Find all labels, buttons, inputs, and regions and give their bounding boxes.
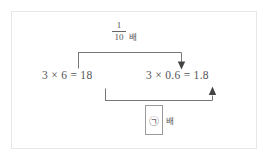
top-bracket [78, 53, 185, 70]
fraction-one-tenth: 1 10 [112, 21, 126, 42]
equation-right: 3 × 0.6 = 1.8 [146, 70, 209, 82]
answer-blank-box[interactable]: ㉠ [145, 105, 163, 135]
bottom-bracket [105, 87, 216, 101]
top-relation-unit: 배 [129, 33, 137, 43]
up-arrow-icon [209, 87, 216, 96]
top-relation-label: 1 10 배 [112, 21, 137, 42]
bottom-relation-unit: 배 [166, 114, 174, 126]
bottom-relation-label: ㉠ 배 [145, 105, 174, 135]
math-relation-diagram: 1 10 배 3 × 6 = 18 3 × 0.6 = 1.8 ㉠ 배 [0, 0, 269, 161]
equation-left: 3 × 6 = 18 [42, 70, 92, 82]
fraction-denominator: 10 [113, 32, 126, 42]
fraction-numerator: 1 [115, 21, 124, 31]
